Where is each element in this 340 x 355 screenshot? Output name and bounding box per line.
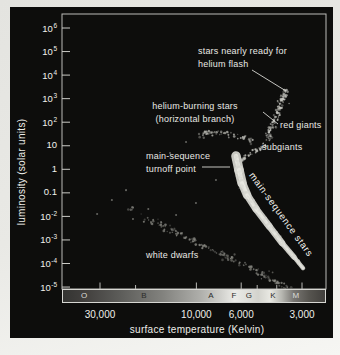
annotation-line: turnoff point: [146, 163, 210, 176]
annotation-subgiants: subgiants: [262, 142, 302, 152]
x-tick-label: 3,000: [289, 309, 314, 320]
x-tick-label: 6,000: [229, 309, 254, 320]
annotation-red-giants: red giants: [280, 120, 322, 130]
spectral-class-bar: OBAFGKM: [62, 289, 326, 303]
y-tick-label: 10-2: [14, 210, 57, 222]
spectral-class-letter: F: [232, 290, 237, 302]
x-tick-label: 10,000: [181, 309, 212, 320]
annotation-white-dwarfs: white dwarfs: [146, 250, 198, 260]
y-tick-label: 10-3: [14, 233, 57, 245]
spectral-class-letter: O: [81, 290, 87, 302]
spectral-class-letter: G: [246, 290, 252, 302]
annotation-line: helium flash: [198, 58, 287, 71]
y-axis-tick-marks: [62, 28, 70, 287]
annotation-line: helium-burning stars: [131, 100, 259, 113]
y-tick-label: 10-4: [14, 257, 57, 269]
spectral-class-letter: B: [141, 290, 146, 302]
annotation-line: main-sequence: [146, 150, 210, 163]
y-tick-label: 0.1: [14, 186, 57, 197]
y-tick-label: 10-5: [14, 281, 57, 293]
annotation-horizontal-branch: helium-burning stars (horizontal branch): [131, 100, 259, 126]
x-tick-label: 30,000: [85, 309, 116, 320]
y-tick-label: 102: [14, 116, 57, 128]
y-tick-label: 103: [14, 92, 57, 104]
hr-diagram-page: luminosity (solar units) surface tempera…: [0, 0, 340, 355]
y-tick-label: 1: [14, 163, 57, 174]
x-axis-title: surface temperature (Kelvin): [130, 324, 265, 335]
spectral-class-letter: A: [208, 290, 213, 302]
annotation-helium-flash: stars nearly ready for helium flash: [198, 45, 287, 70]
y-tick-label: 106: [14, 22, 57, 34]
annotation-line: (horizontal branch): [131, 113, 259, 126]
annotation-turnoff-point: main-sequence turnoff point: [146, 150, 210, 175]
annotation-line: stars nearly ready for: [198, 45, 287, 58]
y-tick-label: 10: [14, 139, 57, 150]
y-tick-label: 105: [14, 45, 57, 57]
spectral-class-letter: M: [293, 290, 300, 302]
y-tick-label: 104: [14, 69, 57, 81]
spectral-class-letter: K: [270, 290, 275, 302]
